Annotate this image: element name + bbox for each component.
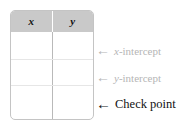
annotation-check-point: ← Check point [96,97,176,112]
figure-container: x y ← x-intercept ← y-intercept ← Check … [0,0,179,128]
left-arrow-icon: ← [96,71,110,85]
row-separator-2 [11,85,93,86]
annotation-y-intercept-text: -intercept [119,72,161,84]
annotation-x-intercept: ← x-intercept [96,44,161,58]
column-divider [52,32,53,120]
annotation-y-intercept: ← y-intercept [96,71,161,85]
left-arrow-icon: ← [96,44,110,58]
column-header-y: y [53,11,94,32]
column-header-x: x [11,11,53,32]
table-header-row: x y [11,11,93,32]
annotation-x-intercept-text: -intercept [119,45,161,57]
left-arrow-icon: ← [96,97,111,112]
xy-table: x y [10,10,94,120]
annotation-check-point-text: Check point [115,98,176,111]
annotation-y-intercept-label: y-intercept [114,73,161,84]
row-separator-1 [11,59,93,60]
annotation-x-intercept-label: x-intercept [114,46,161,57]
